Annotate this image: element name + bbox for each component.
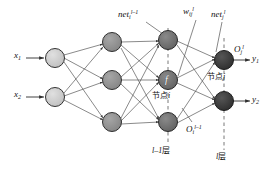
output-label-y2: y2 [252,95,259,105]
leader-net-j [216,22,222,52]
annotation-leader-lines [146,20,222,122]
output-arrows [233,60,250,101]
activation-function-glyph: f [165,74,168,85]
input-arrows [26,58,44,97]
input-label-x1: x1 [14,51,21,61]
input-layer-nodes [46,49,65,107]
hidden-layer-1-nodes [103,33,122,132]
annotation-w-ij: wijl [183,6,194,17]
node-hidden-1 [103,33,122,52]
annotation-net-i-prev: netil–1 [118,9,138,20]
annotation-net-j: netjl [211,9,225,20]
node-j-label: 节点j [207,73,225,81]
annotation-o-i-prev: Oil–1 [186,124,202,135]
leader-net-i [146,22,163,34]
edges-input-to-hidden1 [64,44,103,120]
neural-network-diagram: f x1 x2 y1 y2 netil–1 wijl netjl Ojl Oil… [0,0,274,170]
layer-l-minus-1-nodes [159,31,178,132]
input-label-x2: x2 [14,90,21,100]
layer-label-l-minus-1: l–1层 [152,147,170,155]
output-label-y1: y1 [252,54,259,64]
edges-layer-l-minus-1-to-output [177,41,215,123]
node-hidden-3 [103,113,122,132]
node-output-2 [215,92,234,111]
edges-hidden1-to-layer-l-minus-1 [121,41,159,124]
node-l-prev-3 [159,113,178,132]
node-l-prev-1 [159,31,178,50]
node-hidden-2 [103,71,122,90]
node-i [159,71,178,90]
network-graphics [0,0,274,170]
node-i-label: 节点i [152,92,170,100]
annotation-o-j: Ojl [234,44,244,55]
node-input-1 [46,49,65,68]
node-j [215,51,234,70]
node-input-2 [46,88,65,107]
layer-label-l: l层 [216,153,226,161]
